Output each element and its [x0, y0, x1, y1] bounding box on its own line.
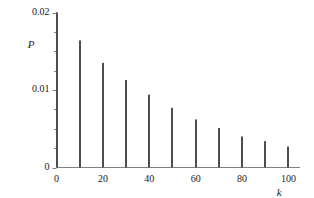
- bar-k-80: [241, 137, 243, 168]
- bar-k-90: [264, 141, 266, 167]
- bar-k-60: [195, 119, 197, 167]
- chart-figure: 0.02 0.01 0 0 20 40 60 80 100 P k: [0, 0, 314, 197]
- bar-k-50: [171, 108, 173, 168]
- bar-k-10: [79, 40, 81, 167]
- bar-k-40: [148, 95, 150, 168]
- bar-k-70: [218, 128, 220, 168]
- y-tick-label-0.01: 0.01: [0, 84, 50, 94]
- bar-k-0: [56, 13, 58, 168]
- bar-k-30: [125, 80, 127, 168]
- y-axis-label: P: [0, 39, 35, 50]
- y-tick-label-0.02: 0.02: [0, 7, 50, 17]
- bar-k-100: [287, 147, 289, 168]
- bar-k-20: [102, 63, 104, 168]
- x-tick-label-100: 100: [248, 174, 314, 184]
- x-axis-label: k: [239, 187, 314, 198]
- y-tick-label-0: 0: [0, 162, 50, 172]
